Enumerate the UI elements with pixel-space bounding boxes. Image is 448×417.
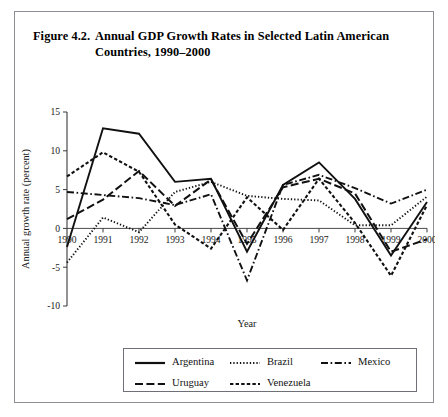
legend-label: Brazil (267, 356, 293, 367)
legend-swatch-uruguay (134, 376, 166, 388)
chart-series-group (67, 128, 427, 280)
chart-legend: ArgentinaBrazilMexicoUruguayVenezuela (123, 348, 417, 392)
series-line-venezuela (67, 152, 427, 275)
y-tick-label: -5 (52, 262, 60, 273)
y-tick-label: 5 (55, 184, 60, 195)
y-axis-ticks: 151050-5-10 (47, 106, 67, 311)
x-tick-label: 1999 (381, 234, 400, 245)
legend-item-brazil: Brazil (229, 350, 293, 372)
legend-swatch-argentina (134, 355, 166, 367)
x-axis-title: Year (238, 318, 258, 329)
figure-title: Annual GDP Growth Rates in Selected Lati… (95, 28, 405, 60)
legend-item-uruguay: Uruguay (134, 371, 209, 393)
x-tick-label: 1991 (93, 234, 112, 245)
legend-item-venezuela: Venezuela (229, 371, 311, 393)
y-axis-title: Annual growth rate (percent) (20, 149, 32, 269)
legend-item-mexico: Mexico (320, 350, 390, 372)
legend-label: Argentina (172, 356, 214, 367)
figure-label: Figure 4.2. (33, 28, 95, 44)
x-tick-label: 1990 (57, 234, 76, 245)
figure-caption: Figure 4.2.Annual GDP Growth Rates in Se… (33, 28, 411, 60)
x-tick-label: 1996 (273, 234, 292, 245)
x-tick-label: 1993 (165, 234, 184, 245)
y-tick-label: 15 (50, 106, 60, 117)
legend-item-argentina: Argentina (134, 350, 214, 372)
legend-label: Mexico (358, 356, 390, 367)
figure-frame: Figure 4.2.Annual GDP Growth Rates in Se… (14, 11, 434, 403)
legend-swatch-mexico (320, 355, 352, 367)
legend-label: Uruguay (172, 377, 209, 388)
y-tick-label: 10 (50, 145, 60, 156)
x-tick-label: 1992 (129, 234, 148, 245)
legend-swatch-brazil (229, 355, 261, 367)
x-tick-label: 1998 (345, 234, 364, 245)
y-tick-label: 0 (55, 223, 60, 234)
chart-plot-area: 151050-5-10 1990199119921993199419951996… (15, 84, 435, 334)
chart-axes (67, 112, 427, 306)
gdp-growth-line-chart: 151050-5-10 1990199119921993199419951996… (15, 84, 435, 334)
legend-label: Venezuela (267, 377, 311, 388)
y-tick-label: -10 (47, 300, 60, 311)
legend-swatch-venezuela (229, 376, 261, 388)
x-tick-label: 1997 (309, 234, 328, 245)
